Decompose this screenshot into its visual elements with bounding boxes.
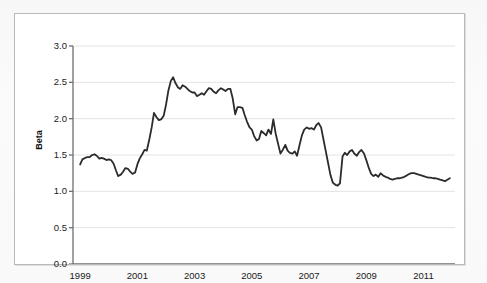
data-series-beta [80, 77, 450, 185]
y-tick-label: 3.0 [33, 40, 67, 51]
x-tick-label: 2001 [117, 270, 157, 281]
beta-line-path [80, 77, 450, 185]
x-tick-label: 1999 [60, 270, 100, 281]
grid-lines [73, 46, 455, 228]
x-tick-label: 2009 [346, 270, 386, 281]
chart-page: Beta 0.00.51.01.52.02.53.0 1999200120032… [0, 0, 487, 283]
x-tick-label: 2007 [289, 270, 329, 281]
y-tick-label: 1.0 [33, 185, 67, 196]
y-tick-label: 0.0 [33, 258, 67, 269]
beta-line-chart [15, 14, 464, 264]
x-tick-label: 2005 [232, 270, 272, 281]
x-tick-label: 2003 [175, 270, 215, 281]
y-tick-label: 1.5 [33, 149, 67, 160]
y-tick-label: 2.0 [33, 113, 67, 124]
y-tick-label: 0.5 [33, 222, 67, 233]
y-axis-title: Beta [34, 130, 44, 150]
x-tick-label: 2011 [404, 270, 444, 281]
y-tick-label: 2.5 [33, 76, 67, 87]
figure-frame: Beta 0.00.51.01.52.02.53.0 1999200120032… [14, 13, 465, 265]
